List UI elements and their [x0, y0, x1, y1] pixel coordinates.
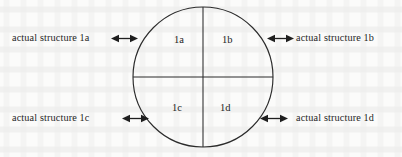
callout-label-1c: actual structure 1c	[12, 113, 90, 123]
quadrant-label-1a: 1a	[174, 35, 184, 46]
callout-label-1a: actual structure 1a	[12, 33, 90, 43]
arrowhead-left-1a	[111, 35, 119, 42]
arrow-1b	[267, 35, 294, 42]
quadrant-label-1b: 1b	[222, 35, 233, 46]
callout-label-1b: actual structure 1b	[296, 33, 374, 43]
arrowhead-left-1c	[122, 115, 130, 122]
arrowhead-left-1b	[267, 35, 275, 42]
arrowhead-right-1b	[286, 35, 294, 42]
quadrant-diagram	[0, 0, 402, 157]
quadrant-label-1d: 1d	[220, 103, 231, 114]
arrowhead-right-1d	[280, 115, 288, 122]
figure-container: 1a 1b 1c 1d actual structure 1a actual s…	[0, 0, 402, 157]
quadrant-label-1c: 1c	[172, 103, 182, 114]
arrowhead-right-1a	[130, 35, 138, 42]
callout-label-1d: actual structure 1d	[296, 113, 374, 123]
arrow-1a	[111, 35, 138, 42]
arrow-1d	[260, 115, 288, 122]
